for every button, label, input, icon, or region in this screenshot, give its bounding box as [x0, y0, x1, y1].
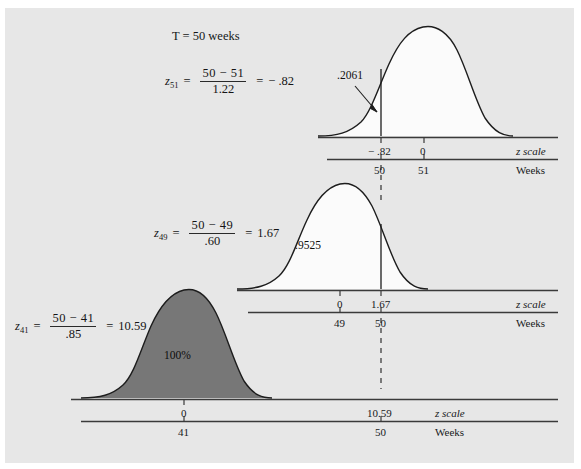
- panel-41-z-tick-label-1: 10.59: [367, 407, 392, 419]
- panel-41-shaded-area: [81, 289, 272, 398]
- panel-41-weeks-axis-label: Weeks: [435, 426, 464, 438]
- panel-41-z-axis-label: z scale: [435, 407, 465, 419]
- panel-41-weeks-tick-label-1: 50: [375, 426, 386, 438]
- panel-41-z-tick-label-0: 0: [181, 407, 187, 419]
- figure-plate: T = 50 weeks z51 = 50 − 51 1.22 = − .82: [5, 8, 574, 463]
- panel-41-curve: [5, 8, 574, 463]
- figure-root: T = 50 weeks z51 = 50 − 51 1.22 = − .82: [0, 0, 581, 469]
- panel-41-weeks-tick-label-0: 41: [178, 426, 189, 438]
- panel-41-area-label: 100%: [164, 349, 191, 361]
